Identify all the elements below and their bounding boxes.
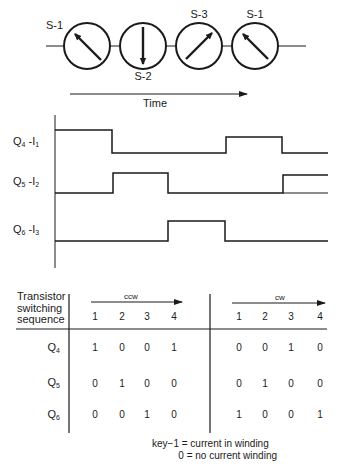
signal-name: Q	[13, 135, 22, 147]
cw-step-4: 4	[317, 311, 323, 322]
cell: 1	[119, 378, 125, 389]
signal-current-subscript: 1	[35, 141, 39, 148]
signal-name: Q	[13, 175, 22, 187]
ccw-step-4: 4	[171, 311, 177, 322]
rotor-sequence	[46, 23, 306, 94]
cell: 0	[317, 378, 323, 389]
signal-label-q5-i2: Q5 -I2	[13, 176, 39, 190]
cell: 0	[119, 342, 125, 353]
row-label-q5: Q5	[48, 377, 60, 391]
rotor-state-1-label: S-1	[46, 20, 63, 31]
rotor-state-4-icon	[232, 23, 278, 69]
diagram-graphics	[0, 0, 343, 474]
cell: 0	[262, 409, 268, 420]
cw-label: cw	[275, 292, 285, 303]
cell: 0	[92, 409, 98, 420]
key-line-2: 0 = no current winding	[178, 450, 277, 461]
cw-step-2: 2	[262, 311, 268, 322]
rotor-state-1-icon	[64, 23, 110, 69]
signal-name: Q	[13, 223, 22, 235]
cell: 1	[236, 409, 242, 420]
signal-label-q6-i3: Q6 -I3	[13, 224, 39, 238]
cell: 0	[288, 378, 294, 389]
ccw-step-2: 2	[119, 311, 125, 322]
signal-current-subscript: 3	[35, 229, 39, 236]
cell: 0	[171, 378, 177, 389]
signal-current-subscript: 2	[35, 181, 39, 188]
rotor-state-3-label: S-3	[190, 9, 207, 20]
signal-label-q4-i1: Q4 -I1	[13, 136, 39, 150]
q4-waveform	[55, 130, 328, 153]
row-label-q6: Q6	[48, 409, 60, 423]
row-name: Q	[48, 341, 57, 353]
row-name: Q	[48, 408, 57, 420]
rotor-state-2-icon	[120, 23, 166, 69]
cell: 0	[171, 409, 177, 420]
row-label-q4: Q4	[48, 342, 60, 356]
cell: 0	[236, 378, 242, 389]
table-header-line-1: Transistor	[17, 291, 66, 303]
cell: 1	[171, 342, 177, 353]
cell: 1	[144, 409, 150, 420]
ccw-step-3: 3	[144, 311, 150, 322]
rotor-state-2-label: S-2	[134, 71, 151, 82]
cell: 0	[262, 342, 268, 353]
row-name: Q	[48, 376, 57, 388]
key-line-1: key−1 = current in winding	[152, 438, 269, 449]
cw-step-1: 1	[236, 311, 242, 322]
cell: 0	[144, 342, 150, 353]
row-subscript: 4	[56, 347, 60, 354]
time-label: Time	[143, 98, 167, 109]
ccw-step-1: 1	[92, 311, 98, 322]
cell: 0	[92, 378, 98, 389]
row-subscript: 5	[56, 382, 60, 389]
cell: 0	[317, 342, 323, 353]
row-subscript: 6	[56, 414, 60, 421]
cell: 0	[144, 378, 150, 389]
rotor-state-3-icon	[176, 23, 222, 69]
cell: 1	[317, 409, 323, 420]
cell: 0	[288, 409, 294, 420]
timing-diagram	[55, 115, 328, 268]
cell: 0	[236, 342, 242, 353]
table-header-line-3: sequence	[17, 314, 65, 326]
q6-waveform	[55, 221, 328, 241]
cell: 1	[262, 378, 268, 389]
cell: 1	[92, 342, 98, 353]
cell: 0	[119, 409, 125, 420]
rotor-state-4-label: S-1	[246, 9, 263, 20]
cell: 1	[288, 342, 294, 353]
ccw-label: ccw	[124, 291, 138, 302]
q5-waveform	[55, 173, 328, 193]
cw-step-3: 3	[288, 311, 294, 322]
